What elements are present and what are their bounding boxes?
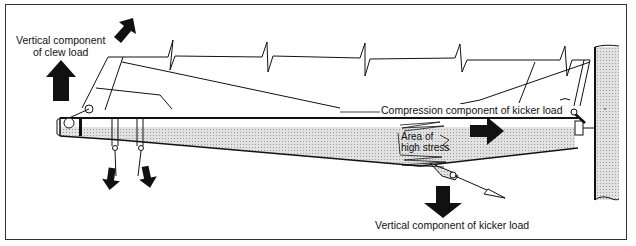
stress-label-line2: high stress (401, 142, 449, 153)
clew-load-label: Vertical component of clew load (16, 34, 105, 58)
clew-diagonal-arrow (114, 18, 136, 43)
mast (595, 45, 619, 200)
sail (82, 40, 590, 110)
clew-vertical-arrow (46, 60, 76, 101)
kicker-vertical-arrow (424, 186, 462, 218)
compression-label: Compression component of kicker load (380, 104, 564, 116)
sheet-arrow-1 (101, 167, 122, 191)
clew-label-line1: Vertical component (16, 34, 105, 46)
high-stress-label: Area of high stress (401, 131, 449, 153)
kicker-vertical-label: Vertical component of kicker load (375, 219, 529, 231)
sheet-arrow-2 (137, 164, 159, 189)
stress-label-line1: Area of (401, 131, 449, 142)
clew-label-line2: of clew load (16, 46, 105, 58)
